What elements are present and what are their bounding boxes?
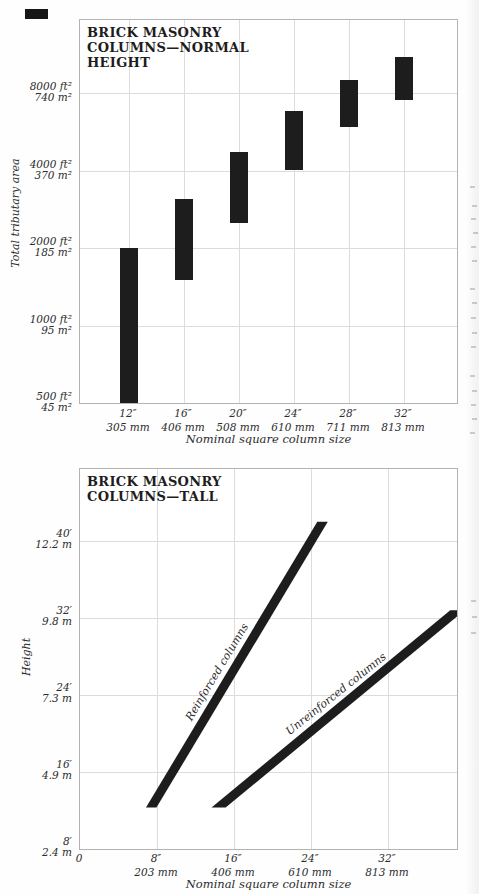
y-axis-title-height: Height — [20, 638, 33, 676]
ghost-mark — [471, 600, 476, 602]
y-tick-40ft: 40′12.2 m — [0, 528, 72, 550]
bar-24in — [285, 111, 303, 170]
bar-16in — [175, 199, 193, 280]
bar-12in — [120, 248, 138, 403]
x-tick-bottom-32in: 32″813 mm — [347, 852, 427, 879]
chart-title-line: COLUMNS—NORMAL — [87, 40, 249, 55]
chart-title-line: BRICK MASONRY — [87, 25, 249, 40]
x-axis-title-column-size-bottom: Nominal square column size — [79, 877, 458, 891]
chart-title-line: BRICK MASONRY — [87, 474, 222, 489]
x-tick-bottom-0in: 0 — [39, 852, 119, 866]
y-tick-16ft: 16′4.9 m — [0, 759, 72, 781]
chart-title-line: COLUMNS—TALL — [87, 489, 222, 504]
ghost-mark — [472, 302, 477, 304]
design-lines-layer — [80, 469, 457, 849]
chart-title-line: HEIGHT — [87, 55, 249, 70]
bar-28in — [340, 80, 358, 127]
plot-area-normal-height: BRICK MASONRY COLUMNS—NORMAL HEIGHT — [79, 19, 458, 404]
ghost-mark — [472, 332, 477, 334]
design-line-reinforced-columns — [146, 522, 328, 808]
y-tick-32ft: 32′9.8 m — [0, 605, 72, 627]
ghost-mark — [471, 246, 476, 248]
ghost-mark — [471, 632, 476, 634]
gridline-24″ — [294, 20, 295, 403]
x-axis-title-column-size-top: Nominal square column size — [79, 432, 458, 446]
ghost-mark — [472, 616, 477, 618]
x-tick-bottom-16in: 16″406 mm — [193, 852, 273, 879]
scanned-book-page: BRICK MASONRY COLUMNS—NORMAL HEIGHT 8000… — [0, 0, 479, 894]
plot-area-tall: Reinforced columnsUnreinforced columns B… — [79, 468, 458, 850]
ghost-mark — [471, 346, 476, 348]
gridline-4000ft2 — [80, 171, 457, 172]
ghost-mark — [472, 418, 477, 420]
y-tick-24ft: 24′7.3 m — [0, 682, 72, 704]
x-tick-bottom-24in: 24″610 mm — [270, 852, 350, 879]
ghost-mark — [470, 432, 475, 434]
ghost-mark — [471, 218, 476, 220]
y-axis-title-tributary-area: Total tributary area — [9, 158, 22, 267]
ghost-mark — [473, 232, 478, 234]
bar-32in — [395, 57, 413, 100]
y-tick-1000ft2: 1000 ft²95 m² — [0, 314, 72, 336]
ghost-mark — [472, 390, 477, 392]
y-tick-500ft2: 500 ft²45 m² — [0, 391, 72, 413]
chart-title-normal-height: BRICK MASONRY COLUMNS—NORMAL HEIGHT — [87, 25, 249, 70]
ghost-mark — [472, 260, 477, 262]
bar-20in — [230, 152, 248, 223]
gridline-28″ — [349, 20, 350, 403]
page-corner-mark — [25, 9, 48, 19]
ghost-mark — [470, 186, 475, 188]
x-tick-32in: 32″813 mm — [363, 407, 443, 434]
chart-title-tall: BRICK MASONRY COLUMNS—TALL — [87, 474, 222, 504]
ghost-mark — [470, 288, 475, 290]
ghost-mark — [471, 317, 476, 319]
y-tick-8000ft2: 8000 ft²740 m² — [0, 81, 72, 103]
ghost-mark — [471, 404, 476, 406]
ghost-mark — [472, 205, 477, 207]
ghost-mark — [470, 375, 475, 377]
x-tick-bottom-8in: 8″203 mm — [116, 852, 196, 879]
